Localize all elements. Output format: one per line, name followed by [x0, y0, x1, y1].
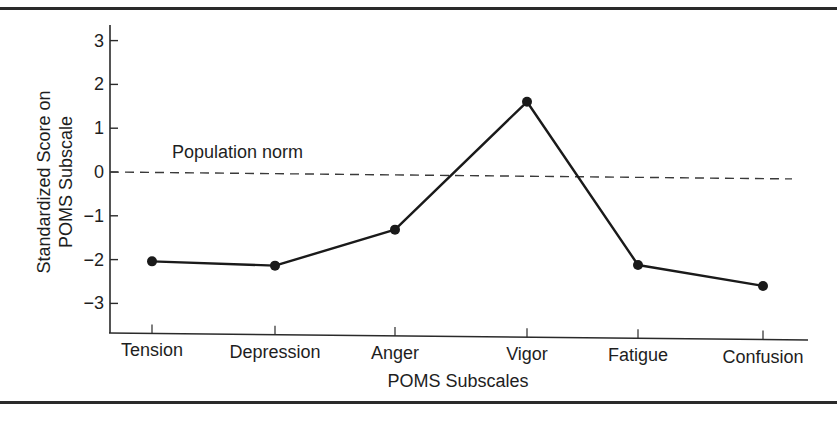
y-tick-label: 3	[94, 31, 104, 51]
data-point-anger	[390, 225, 400, 235]
y-tick-label: 2	[94, 74, 104, 94]
x-axis-ticks: TensionDepressionAngerVigorFatigueConfus…	[121, 324, 804, 366]
data-series	[147, 97, 768, 291]
x-tick-label-anger: Anger	[371, 343, 419, 363]
y-axis-title-line1: Standardized Score on	[34, 90, 54, 273]
y-tick-label: −2	[83, 250, 104, 270]
axes	[109, 25, 808, 340]
y-axis-title-line2: POMS Subscale	[56, 116, 76, 248]
x-axis-title: POMS Subscales	[387, 371, 528, 391]
data-point-tension	[147, 256, 157, 266]
x-axis-line	[109, 333, 808, 340]
data-point-fatigue	[633, 260, 643, 270]
series-line	[152, 102, 763, 286]
x-tick-label-fatigue: Fatigue	[608, 345, 668, 365]
data-point-confusion	[758, 281, 768, 291]
data-point-vigor	[522, 97, 532, 107]
population-norm-label: Population norm	[172, 142, 303, 162]
line-chart: 3210−1−2−3 TensionDepressionAngerVigorFa…	[0, 0, 837, 422]
x-tick-label-tension: Tension	[121, 340, 183, 360]
y-tick-label: −1	[83, 206, 104, 226]
data-point-depression	[270, 261, 280, 271]
y-tick-label: 0	[94, 162, 104, 182]
y-tick-label: 1	[94, 118, 104, 138]
y-tick-label: −3	[83, 293, 104, 313]
x-tick-label-confusion: Confusion	[722, 347, 803, 367]
x-tick-label-depression: Depression	[229, 342, 320, 362]
x-tick-label-vigor: Vigor	[506, 344, 548, 364]
